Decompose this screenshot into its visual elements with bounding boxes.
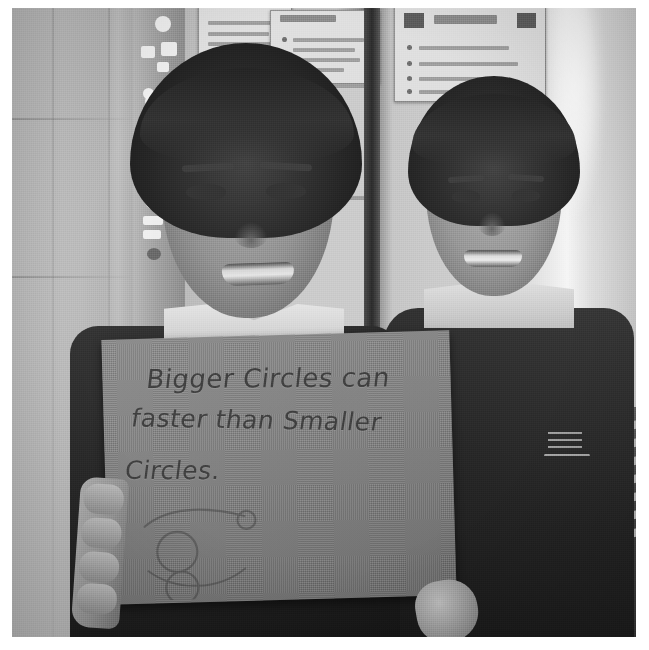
child-right-eye xyxy=(452,190,480,203)
finger xyxy=(78,551,120,584)
crest-bar xyxy=(548,439,581,441)
crest-bar xyxy=(548,432,581,434)
card-writing: Bigger Circles can faster than Smaller C… xyxy=(122,344,449,594)
strip-sticker-icon xyxy=(143,230,161,239)
poster-text-line xyxy=(293,38,364,42)
poster-text-line xyxy=(208,21,276,25)
poster-bullet xyxy=(407,89,412,94)
strip-sticker-icon xyxy=(161,42,177,56)
image-canvas: Bigger Circles can faster than Smaller C… xyxy=(0,0,649,650)
strip-sticker-icon xyxy=(155,16,171,32)
poster-text-line xyxy=(208,32,269,36)
school-crest xyxy=(542,380,588,452)
strip-dot-icon xyxy=(147,248,161,260)
wall-seam-line xyxy=(52,8,54,637)
crest-triangle-icon xyxy=(542,380,592,456)
door-jamb xyxy=(364,8,380,338)
poster-logo-right xyxy=(517,13,537,28)
handwritten-card: Bigger Circles can faster than Smaller C… xyxy=(101,330,456,605)
finger xyxy=(83,483,125,516)
card-line-3: Circles. xyxy=(123,456,222,485)
poster-bullet xyxy=(407,45,412,50)
wall-horizontal-line xyxy=(12,118,132,120)
poster-bullet xyxy=(407,61,412,66)
crest-bar xyxy=(548,446,581,448)
finger xyxy=(80,517,122,550)
poster-bullet xyxy=(407,76,412,81)
child-right-nose xyxy=(478,212,506,236)
poster-text-line xyxy=(293,48,356,52)
poster-bullet xyxy=(282,37,287,42)
card-line-2: faster than Smaller xyxy=(129,403,383,436)
card-line-1: Bigger Circles can xyxy=(145,362,392,394)
poster-text-line xyxy=(419,46,509,50)
poster-title-placeholder xyxy=(434,15,497,24)
circles-sketch-icon xyxy=(140,497,293,601)
child-right-mouth xyxy=(464,250,522,267)
child-right-eye xyxy=(512,189,540,202)
finger xyxy=(76,583,118,616)
child-left-mouth xyxy=(222,262,295,286)
child-left-nose xyxy=(234,222,268,248)
child-left-eye xyxy=(266,183,306,199)
poster-title-placeholder xyxy=(280,15,336,22)
poster-text-line xyxy=(419,62,518,66)
wall-horizontal-line xyxy=(12,276,130,278)
poster-logo-left xyxy=(404,13,424,28)
child-left-eye xyxy=(186,184,226,200)
strip-sticker-icon xyxy=(141,46,155,58)
scanned-photograph: Bigger Circles can faster than Smaller C… xyxy=(12,8,636,637)
strip-sticker-icon xyxy=(157,62,169,72)
